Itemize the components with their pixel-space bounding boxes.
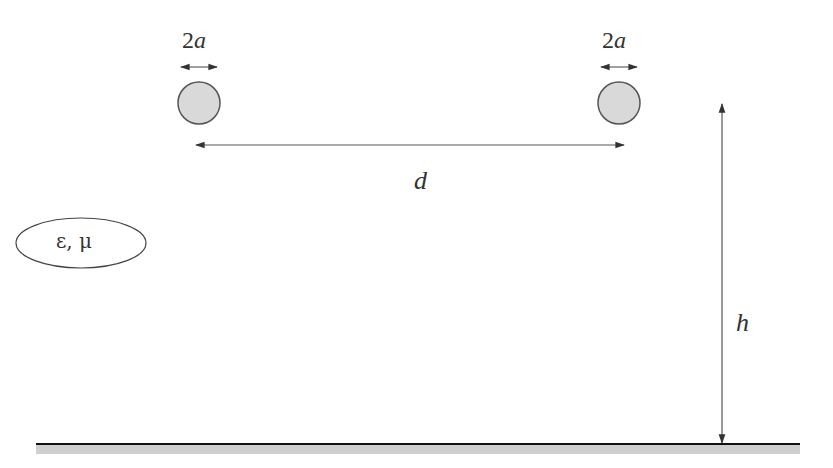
diagram-canvas	[0, 0, 833, 468]
ground-band	[36, 445, 800, 454]
medium-label: ε, μ	[56, 229, 92, 253]
right-conductor	[598, 82, 640, 124]
left-conductor	[178, 82, 220, 124]
height-label: h	[736, 308, 749, 338]
separation-label: d	[414, 166, 427, 196]
left-diameter-label: 2a	[182, 27, 206, 54]
right-diameter-label: 2a	[602, 27, 626, 54]
